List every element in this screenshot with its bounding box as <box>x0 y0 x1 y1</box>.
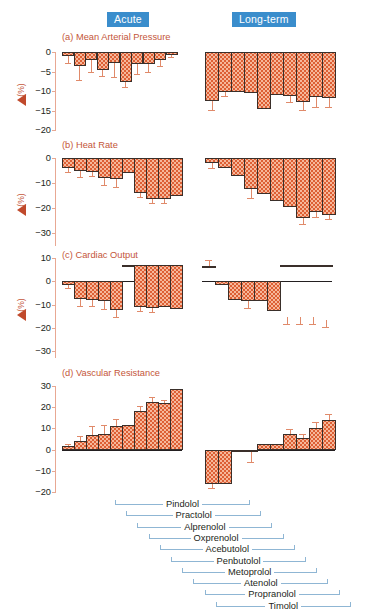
y-tick <box>52 492 56 493</box>
error-bar <box>251 189 252 198</box>
bar <box>62 158 75 168</box>
bar <box>257 52 271 109</box>
panel-title-a: (a) Mean Arterial Pressure <box>62 32 171 42</box>
error-bar-cap <box>76 80 82 81</box>
y-tick-label: 0 <box>46 47 51 57</box>
error-bar-cap <box>77 306 83 307</box>
bracket-left-end <box>126 511 127 516</box>
y-tick-label: −10 <box>35 178 51 188</box>
error-bar-cap <box>134 74 140 75</box>
bar <box>146 158 159 199</box>
bar <box>134 265 147 307</box>
y-axis-a: 0−5−10−15−20 <box>55 52 56 130</box>
error-bar-cap <box>208 488 214 489</box>
error-bar-cap <box>322 327 328 328</box>
error-bar-cap <box>309 324 315 325</box>
bar <box>120 52 132 82</box>
y-tick-label: 0 <box>46 276 51 286</box>
error-bar-cap <box>111 77 117 78</box>
y-tick <box>52 72 56 73</box>
y-axis-c: 100−10−20−30 <box>55 258 56 358</box>
drug-name-label: Propranolol <box>245 589 299 599</box>
error-bar-cap <box>299 224 305 225</box>
error-bar-cap <box>149 312 155 313</box>
bracket-left-end <box>160 545 161 550</box>
bar <box>293 265 307 267</box>
y-tick <box>52 158 56 159</box>
bar <box>309 158 323 212</box>
bracket-right-end <box>327 579 328 584</box>
error-bar <box>104 301 105 309</box>
bar <box>98 158 111 178</box>
error-bar <box>116 419 117 427</box>
bar <box>270 158 284 201</box>
error-bar-cap <box>325 107 331 108</box>
error-bar <box>116 179 117 188</box>
y-tick-label: −30 <box>35 228 51 238</box>
bar <box>309 428 323 450</box>
error-bar-cap <box>299 434 305 435</box>
error-bar-cap <box>205 260 211 261</box>
bar <box>74 158 87 171</box>
bracket-left-end <box>137 523 138 528</box>
bar <box>108 52 120 63</box>
bar <box>319 265 333 267</box>
bracket-left-end <box>205 590 206 595</box>
bracket-left-end <box>182 568 183 573</box>
figure-root: Acute Long-term (a) Mean Arterial Pressu… <box>0 0 368 616</box>
error-bar-cap <box>247 198 253 199</box>
bar <box>122 265 135 267</box>
error-bar <box>137 64 138 74</box>
y-tick <box>52 471 56 472</box>
drug-name-label: Penbutolol <box>214 556 264 566</box>
bar <box>110 426 123 449</box>
zero-line <box>62 450 182 451</box>
bar <box>322 420 336 450</box>
error-bar-cap <box>65 444 71 445</box>
bar <box>110 281 123 310</box>
y-tick-label: −20 <box>35 323 51 333</box>
bar <box>218 158 232 168</box>
error-bar-cap <box>113 187 119 188</box>
y-tick <box>52 91 56 92</box>
y-axis-b: 0−10−20−30 <box>55 158 56 246</box>
y-axis-label-a: (%) <box>4 85 38 106</box>
y-tick-label: −20 <box>35 125 51 135</box>
bar <box>283 52 297 96</box>
drug-name-label: Acebutolol <box>203 544 252 554</box>
bar <box>62 446 75 450</box>
error-bar-cap <box>77 177 83 178</box>
bar <box>86 435 99 449</box>
y-tick <box>52 386 56 387</box>
error-bar <box>326 320 327 327</box>
bar <box>170 158 183 196</box>
bar <box>146 402 159 450</box>
drug-bracket: Timolol <box>216 602 351 613</box>
error-bar-cap <box>99 76 105 77</box>
error-bar-cap <box>89 306 95 307</box>
error-bar-cap <box>137 197 143 198</box>
y-axis-label-c: (%) <box>4 300 38 321</box>
error-bar-cap <box>296 324 302 325</box>
y-tick <box>52 281 56 282</box>
y-tick <box>52 52 56 53</box>
percent-unit-label: (%) <box>16 288 26 322</box>
bar <box>122 425 135 449</box>
bar <box>218 52 232 92</box>
bracket-right-end <box>350 602 351 607</box>
y-tick-label: −10 <box>35 466 51 476</box>
error-bar-cap <box>208 110 214 111</box>
error-bar-cap <box>247 462 253 463</box>
error-bar-cap <box>149 397 155 398</box>
bar <box>218 450 232 484</box>
bracket-right-end <box>283 534 284 539</box>
y-axis-label-b: (%) <box>4 195 38 216</box>
error-bar-cap <box>101 185 107 186</box>
drug-name-label: Metoprolol <box>225 567 274 577</box>
bar <box>296 438 310 450</box>
y-tick <box>52 208 56 209</box>
error-bar-cap <box>161 203 167 204</box>
error-bar-cap <box>137 311 143 312</box>
bar <box>170 265 183 309</box>
panel-title-d: (d) Vascular Resistance <box>62 368 160 378</box>
